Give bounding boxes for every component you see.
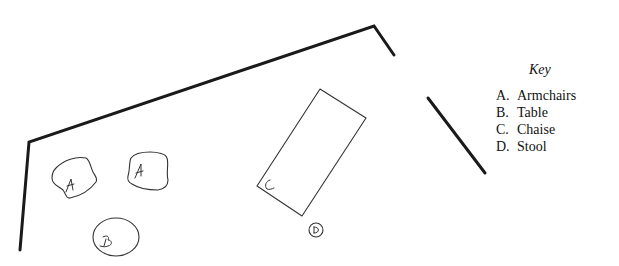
legend-item-table: B.Table xyxy=(496,104,576,121)
table-label-glyph xyxy=(100,236,111,247)
legend-letter: D. xyxy=(496,138,517,155)
armchair-1-label-glyph xyxy=(66,179,74,192)
legend-letter: B. xyxy=(496,104,517,121)
armchair-2-label-glyph xyxy=(135,164,143,178)
stool-label-glyph xyxy=(314,227,319,233)
armchair-2-outline xyxy=(128,152,168,190)
legend: Key A.Armchairs B.Table C.Chaise D.Stool xyxy=(496,62,576,155)
wall-right xyxy=(428,98,485,173)
legend-label: Armchairs xyxy=(517,88,576,103)
legend-title: Key xyxy=(529,62,576,78)
legend-item-armchairs: A.Armchairs xyxy=(496,87,576,104)
armchair-2 xyxy=(128,152,168,190)
legend-label: Stool xyxy=(517,139,547,154)
legend-item-chaise: C.Chaise xyxy=(496,121,576,138)
legend-label: Chaise xyxy=(517,122,555,137)
chaise xyxy=(257,89,366,216)
stool-outline xyxy=(309,223,323,237)
legend-item-stool: D.Stool xyxy=(496,138,576,155)
armchair-1 xyxy=(52,157,97,198)
chaise-label-glyph xyxy=(266,180,274,189)
wall-main xyxy=(20,26,394,250)
chaise-outline xyxy=(257,89,366,216)
legend-label: Table xyxy=(517,105,548,120)
table xyxy=(93,218,139,256)
stool xyxy=(309,223,323,237)
legend-letter: C. xyxy=(496,121,517,138)
table-outline xyxy=(93,218,139,256)
legend-letter: A. xyxy=(496,87,517,104)
armchair-1-outline xyxy=(52,157,97,198)
